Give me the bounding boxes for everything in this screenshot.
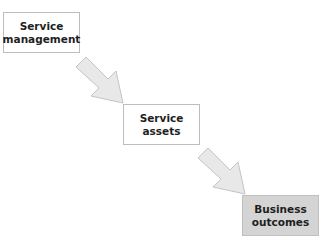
node-business-outcomes: Business outcomes <box>242 195 319 236</box>
arrow-down-right-icon <box>198 148 245 194</box>
node-service-management: Service management <box>3 12 80 53</box>
arrow-down-right-icon <box>76 57 123 103</box>
node-label: Service assets <box>140 112 184 138</box>
node-service-assets: Service assets <box>123 104 200 145</box>
node-label: Service management <box>3 20 81 46</box>
node-label: Business outcomes <box>252 203 309 229</box>
